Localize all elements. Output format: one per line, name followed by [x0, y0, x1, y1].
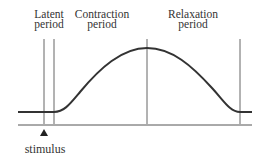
stimulus-marker-icon	[40, 129, 48, 136]
stimulus-label: stimulus	[22, 144, 68, 154]
myogram-graph	[0, 0, 269, 164]
twitch-curve	[18, 48, 252, 112]
